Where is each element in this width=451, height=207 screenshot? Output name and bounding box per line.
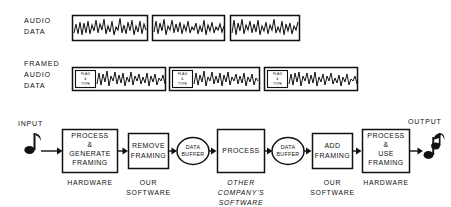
node-label-line-1: PROCESS: [367, 132, 404, 139]
music-note-beamed-icon: [424, 133, 445, 159]
flag-label-line-1: FLAG: [273, 72, 282, 76]
node-under-label-line-1: OUR: [324, 179, 341, 186]
audio-data-label-line-2: DATA: [24, 27, 46, 36]
node-process-generate-framing: PROCESS & GENERATE FRAMING HARDWARE: [63, 130, 118, 186]
buffer-label-line-2: BUFFER: [277, 151, 300, 157]
node-process: PROCESS OTHER COMPANY'S SOFTWARE: [218, 130, 265, 206]
node-under-label-line-2: COMPANY'S: [218, 189, 265, 196]
node-label-line-2: FRAMING: [315, 152, 350, 159]
audio-data-segment: [153, 16, 225, 41]
node-under-label-line-3: SOFTWARE: [219, 199, 264, 206]
framed-audio-label-line-3: DATA: [24, 81, 46, 90]
output-label: OUTPUT: [408, 118, 442, 125]
audio-data-row-label: AUDIO DATA: [24, 16, 51, 36]
music-note-icon: [24, 133, 40, 154]
flag-label-line-1: FLAG: [178, 72, 187, 76]
input-label: INPUT: [18, 120, 43, 127]
framed-audio-segment: FLAG & TYPE: [170, 68, 260, 91]
node-label-line-1: PROCESS: [222, 147, 259, 154]
buffer-label-line-2: BUFFER: [182, 151, 205, 157]
node-under-label-line-2: SOFTWARE: [310, 189, 354, 196]
node-label-line-1: REMOVE: [132, 142, 165, 149]
node-under-label: HARDWARE: [67, 179, 113, 186]
node-under-label-line-1: OTHER: [227, 179, 255, 186]
node-process-use-framing: PROCESS & USE FRAMING HARDWARE: [363, 130, 410, 186]
framed-audio-label-line-1: FRAMED: [24, 59, 59, 68]
node-label-line-2: &: [383, 141, 388, 148]
framed-audio-segment: FLAG & TYPE: [73, 68, 166, 91]
pipeline-flow-diagram: INPUT PROCESS & GENERATE FRAMING HARDWAR…: [18, 118, 444, 206]
node-under-label-line-1: OUR: [140, 179, 157, 186]
buffer-label-line-1: DATA: [281, 144, 296, 150]
framed-audio-segment: FLAG & TYPE: [265, 68, 358, 91]
node-under-label-line-2: SOFTWARE: [126, 189, 170, 196]
input-endpoint: INPUT: [18, 120, 63, 155]
flag-label-line-3: TYPE: [273, 82, 283, 86]
framed-audio-data-row-label: FRAMED AUDIO DATA: [24, 59, 59, 90]
node-label-line-2: &: [87, 141, 92, 148]
node-label-line-1: ADD: [324, 142, 340, 149]
flag-label-line-3: TYPE: [81, 82, 91, 86]
audio-data-segment: [231, 16, 300, 41]
node-label-line-3: USE: [378, 150, 394, 157]
node-label-line-3: GENERATE: [69, 150, 111, 157]
node-under-label: HARDWARE: [363, 179, 409, 186]
node-data-buffer-1: DATA BUFFER: [177, 138, 209, 165]
connector-arrow: [304, 148, 312, 155]
audio-data-row: AUDIO DATA: [24, 16, 300, 41]
node-add-framing: ADD FRAMING OUR SOFTWARE: [310, 134, 354, 196]
connector-arrow: [169, 148, 178, 155]
figure-canvas: AUDIO DATA FRAMED AUDIO: [0, 0, 451, 207]
node-data-buffer-2: DATA BUFFER: [272, 138, 304, 165]
framed-audio-label-line-2: AUDIO: [24, 70, 51, 79]
output-endpoint: OUTPUT: [408, 118, 444, 159]
audio-data-segment: [73, 16, 148, 41]
connector-arrow: [353, 148, 362, 155]
buffer-label-line-1: DATA: [186, 144, 201, 150]
node-label-line-2: FRAMING: [131, 152, 166, 159]
flag-label-line-1: FLAG: [81, 72, 90, 76]
node-label-line-4: FRAMING: [368, 159, 403, 166]
flag-label-line-3: TYPE: [178, 82, 188, 86]
node-label-line-1: PROCESS: [71, 132, 108, 139]
node-remove-framing: REMOVE FRAMING OUR SOFTWARE: [126, 134, 170, 196]
framed-audio-data-row: FRAMED AUDIO DATA FLAG & TYPE: [24, 59, 358, 91]
connector-arrow: [118, 148, 129, 155]
node-label-line-4: FRAMING: [72, 159, 107, 166]
connector-arrow: [209, 148, 217, 155]
audio-data-label-line-1: AUDIO: [24, 16, 51, 25]
